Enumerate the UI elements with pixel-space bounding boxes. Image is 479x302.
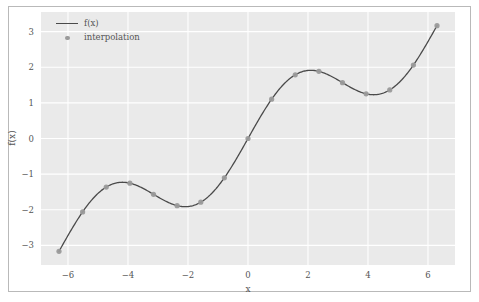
interpolation-point	[80, 209, 85, 214]
legend-dot-swatch	[54, 32, 80, 43]
chart-legend: f(x) interpolation	[52, 16, 144, 45]
legend-label-fx: f(x)	[84, 19, 99, 28]
interpolation-point	[316, 69, 321, 74]
interpolation-point	[269, 97, 274, 102]
x-tick-label: −4	[122, 271, 135, 280]
x-tick-label: 6	[425, 271, 430, 280]
y-axis-label: f(x)	[8, 130, 17, 145]
interpolation-point	[411, 62, 416, 67]
x-axis-label: x	[245, 285, 250, 294]
interpolation-point	[175, 203, 180, 208]
plot-area	[41, 12, 455, 265]
x-tick-label: −2	[182, 271, 195, 280]
interpolation-point	[127, 181, 132, 186]
x-tick-label: 2	[305, 271, 310, 280]
y-tick-label: −2	[18, 206, 34, 215]
interpolation-point	[56, 249, 61, 254]
legend-entry-fx: f(x)	[54, 18, 140, 29]
interpolation-point	[222, 175, 227, 180]
plot-svg	[41, 12, 455, 265]
interpolation-point	[387, 87, 392, 92]
interpolation-point	[245, 136, 250, 141]
interpolation-point	[104, 184, 109, 189]
y-tick-label: 1	[18, 99, 34, 108]
interpolation-point	[340, 80, 345, 85]
interpolation-point	[293, 72, 298, 77]
y-tick-label: −3	[18, 241, 34, 250]
legend-entry-interpolation: interpolation	[54, 32, 140, 43]
x-tick-label: −6	[62, 271, 75, 280]
interpolation-point	[434, 23, 439, 28]
y-tick-label: −1	[18, 170, 34, 179]
y-tick-label: 2	[18, 63, 34, 72]
interpolation-point	[364, 91, 369, 96]
legend-label-interpolation: interpolation	[84, 33, 140, 42]
interpolation-point	[198, 200, 203, 205]
interpolation-point	[151, 192, 156, 197]
legend-line-swatch	[54, 18, 80, 29]
chart-figure: −3−2−10123 −6−4−20246 f(x) x f(x) interp…	[0, 0, 479, 302]
x-tick-label: 0	[245, 271, 250, 280]
x-tick-label: 4	[365, 271, 370, 280]
y-tick-label: 3	[18, 27, 34, 36]
y-tick-label: 0	[18, 134, 34, 143]
